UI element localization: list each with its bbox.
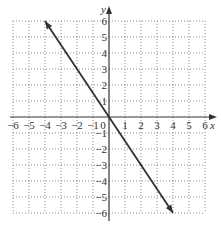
y-tick-label: 6 [102,15,108,27]
x-tick-label: 1 [122,119,128,131]
y-tick-label: 1 [102,95,108,107]
x-axis-label: x [209,119,215,131]
x-tick-label: −6 [7,119,19,131]
y-tick-label: −4 [95,175,107,187]
x-tick-label: 2 [138,119,144,131]
y-axis-arrow-icon [106,6,112,14]
y-axis-label: y [100,3,106,15]
x-tick-label: 6 [202,119,208,131]
x-tick-label: 4 [170,119,176,131]
line-arrow-start-icon [45,21,52,29]
x-tick-label: −4 [39,119,51,131]
line-arrow-end-icon [166,205,173,213]
x-tick-label: 5 [186,119,192,131]
y-tick-label: −1 [95,127,107,139]
x-tick-label: −3 [55,119,67,131]
y-tick-label: −3 [95,159,107,171]
y-tick-label: 2 [102,79,108,91]
y-tick-label: 5 [102,31,108,43]
x-tick-label: 3 [154,119,160,131]
y-tick-label: −2 [95,143,107,155]
coordinate-plane: −6−5−4−3−2−10123456654321−1−2−3−4−5−6xy [0,0,221,226]
y-tick-label: 4 [102,47,108,59]
y-tick-label: −6 [95,207,107,219]
x-tick-label: −2 [71,119,83,131]
y-tick-label: −5 [95,191,107,203]
x-tick-label: −5 [23,119,35,131]
y-tick-label: 3 [102,63,108,75]
